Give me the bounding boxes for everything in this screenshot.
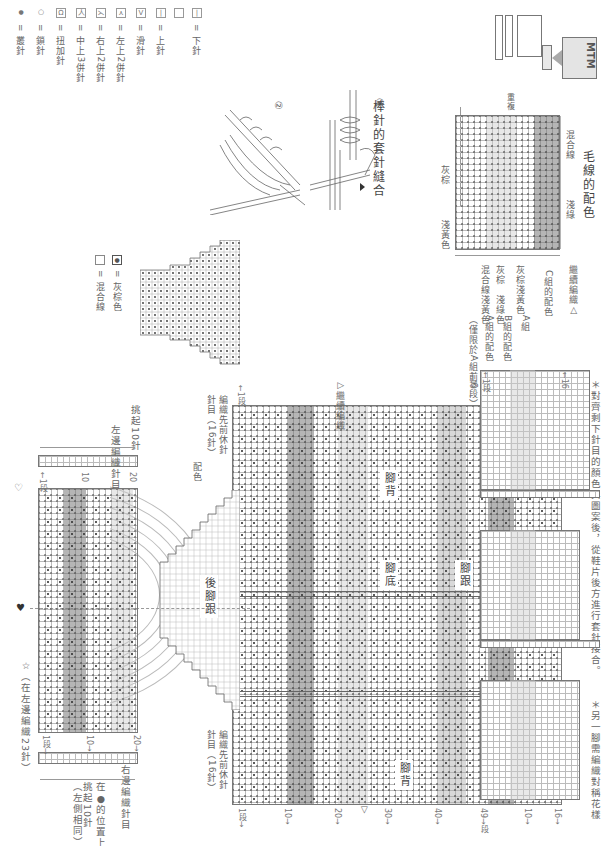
legend-right-k2tog: ⋋ = 右上2併針 [94,8,108,83]
blank-swatch-icon [95,255,105,265]
legend-slip: V = 滑針 [134,8,148,56]
bobble-stitch-icon: ● [16,8,26,18]
gusset-chart: ● = 灰棕色 = 混合線 [140,240,240,370]
twisted-increase-icon: Ω [56,8,66,18]
heart-marker-icon: ♥ [16,602,25,613]
heel-pick-row-left [38,455,138,467]
left-k2tog-icon: ⋏ [116,8,126,18]
heel-flap-chart [38,488,138,733]
right-pick-label-3: （左側相同） [72,782,83,846]
joining-step1-drawing [310,90,380,220]
right-bracket [40,770,135,780]
left-bracket [40,440,135,448]
legend-twisted-increase: Ω = 扭加針 [54,8,68,66]
heel-turn-chart: 後腳跟 [140,490,240,710]
right-pick-label-1: 在●的位置上 [95,782,106,846]
legend-bobble: ● = 叢針 [14,8,28,56]
label-sole: 腳底 [380,560,398,590]
heel-note: ☆（在左邊編織23針） [20,660,31,774]
heel-pick-row-right [38,752,138,764]
dot-swatch-icon: ● [112,255,122,265]
heel-title: 後腳跟 [200,575,218,618]
blank-stitch-icon [174,8,184,18]
publisher-logo: MTM [495,15,600,80]
legend-left-k2tog: ⋏ = 左上2併針 [114,8,128,83]
right-k2tog-icon: ⋋ [96,8,106,18]
legend-center-3tog: 人 = 中上3併針 [74,8,88,83]
right-pick-label-2: 挑起10針 [82,782,93,829]
color-chart-block: 重複 毛線的配色 混合線 淺綠 灰棕 淺黃色 混合線 淺黃色 灰棕 淺綠色 灰棕… [440,105,610,365]
slip-stitch-icon: V [136,8,146,18]
kitchener-stitch-illustration: 棒針的套針縫合 ① ② [200,90,440,240]
label-instep-top: 腳背 [380,470,398,500]
legend-knit: | = 下針 [190,8,204,56]
logo-box: MTM [562,37,597,79]
center-3tog-icon: 人 [76,8,86,18]
color-chart-grid [455,115,560,250]
left-rows-label: 左邊編織針目 [110,425,121,491]
joining-step2-drawing [210,105,310,215]
purl-stitch-icon: | [156,8,166,18]
legend-blank [172,8,186,18]
toe-shaping [480,370,600,810]
label-instep-bottom: 腳背 [395,760,413,790]
label-heel: 腳跟 [455,560,473,590]
legend-purl: | = 上針 [154,8,168,56]
chain-stitch-icon: ○ [36,8,46,18]
continue-label: ▷繼續編織 [335,380,346,431]
continue-triangle-icon: ▷ [360,807,370,814]
legend-chain: ○ = 鎖針 [34,8,48,56]
stitch-legend: | = 下針 | = 上針 V = 滑針 ⋏ = 左上2併針 ⋋ = 右上2併針… [14,8,204,168]
knit-stitch-icon: | [192,8,202,18]
diamond-marker-icon: ♡ [14,482,23,493]
